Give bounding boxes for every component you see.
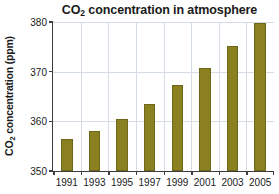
gridline-vertical — [191, 22, 192, 171]
chart-title-main: CO — [62, 3, 81, 17]
x-tick-label: 2001 — [194, 177, 216, 188]
chart-title-subscript: 2 — [80, 8, 85, 18]
x-tick-mark — [273, 171, 275, 175]
bar — [254, 23, 266, 171]
y-axis-title-rest: concentration (ppm) — [3, 36, 15, 136]
y-tick-label: 350 — [30, 166, 47, 177]
y-tick-label: 370 — [30, 66, 47, 77]
gridline-vertical — [136, 22, 137, 171]
bar — [61, 139, 73, 171]
x-tick-label: 1993 — [83, 177, 105, 188]
x-tick-label: 2003 — [221, 177, 243, 188]
chart-title: CO2 concentration in atmosphere — [40, 1, 279, 20]
gridline-vertical — [164, 22, 165, 171]
x-tick-mark — [108, 171, 110, 175]
x-tick-mark — [81, 171, 83, 175]
y-tick-mark — [49, 121, 53, 123]
x-tick-mark — [53, 171, 55, 175]
bar — [227, 46, 239, 171]
y-axis-title-main: CO — [3, 141, 15, 156]
bar — [172, 85, 184, 171]
bar — [199, 68, 211, 171]
y-axis-title-container: CO2 concentration (ppm) — [0, 20, 18, 172]
x-tick-label: 1997 — [139, 177, 161, 188]
plot-area: 350360370380 199119931995199719992001200… — [52, 22, 274, 172]
x-tick-label: 1991 — [56, 177, 78, 188]
gridline-vertical — [108, 22, 109, 171]
co2-bar-chart-figure: CO2 concentration in atmosphere CO2 conc… — [0, 0, 279, 194]
x-tick-mark — [164, 171, 166, 175]
gridline-vertical — [81, 22, 82, 171]
x-tick-mark — [136, 171, 138, 175]
gridline-vertical — [219, 22, 220, 171]
y-axis-title-subscript: 2 — [8, 137, 17, 141]
bar — [144, 104, 156, 171]
x-tick-label: 1999 — [166, 177, 188, 188]
chart-title-rest: concentration in atmosphere — [85, 3, 257, 17]
x-tick-mark — [191, 171, 193, 175]
gridline-vertical — [246, 22, 247, 171]
y-tick-mark — [49, 21, 53, 23]
bar — [89, 131, 101, 171]
y-tick-mark — [49, 71, 53, 73]
x-tick-mark — [219, 171, 221, 175]
y-axis-title: CO2 concentration (ppm) — [3, 36, 15, 156]
x-tick-mark — [246, 171, 248, 175]
x-tick-label: 2005 — [249, 177, 271, 188]
x-tick-label: 1995 — [111, 177, 133, 188]
bar — [116, 119, 128, 171]
y-tick-label: 380 — [30, 17, 47, 28]
y-tick-label: 360 — [30, 116, 47, 127]
